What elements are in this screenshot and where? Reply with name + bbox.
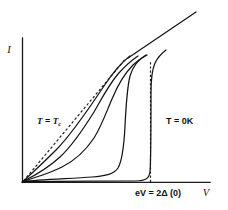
tc-annotation-subscript: c <box>58 120 61 127</box>
normal-state-asymptote-group <box>128 12 196 58</box>
x-axis-label: V <box>203 187 211 198</box>
plot-canvas: I V T = Tc T = 0K eV = 2Δ (0) <box>0 0 228 210</box>
zero-kelvin-annotation: T = 0K <box>166 116 194 126</box>
axes-group <box>22 38 210 183</box>
tc-annotation-text: T = Tc <box>37 116 61 127</box>
tc-annotation: T = Tc <box>37 116 61 127</box>
gap-voltage-label: eV = 2Δ (0) <box>135 188 181 198</box>
iv-characteristic-figure: I V T = Tc T = 0K eV = 2Δ (0) <box>0 0 228 210</box>
y-axis-label: I <box>6 44 11 55</box>
tc-annotation-equals: = <box>43 116 53 126</box>
normal-state-asymptote <box>128 12 196 58</box>
